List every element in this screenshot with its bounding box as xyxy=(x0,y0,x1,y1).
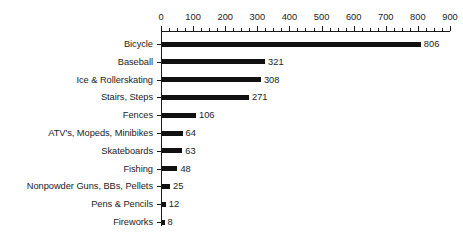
category-axis-label: Skateboards xyxy=(0,146,153,156)
bar-value-label: 321 xyxy=(268,57,284,67)
value-axis-tick-label: 400 xyxy=(282,12,298,22)
category-axis-tick xyxy=(157,186,162,187)
bar xyxy=(162,131,183,136)
category-axis-tick xyxy=(157,204,162,205)
value-axis-minor-tick xyxy=(201,28,202,31)
value-axis-minor-tick xyxy=(185,28,186,31)
value-axis-tick-label: 800 xyxy=(410,12,426,22)
bar-value-label: 63 xyxy=(185,146,195,156)
value-axis-minor-tick xyxy=(330,28,331,31)
value-axis-minor-tick xyxy=(378,28,379,31)
bar xyxy=(162,166,177,171)
value-axis-minor-tick xyxy=(346,28,347,31)
value-axis-tick-label: 300 xyxy=(250,12,266,22)
category-axis-label: Fences xyxy=(0,110,153,120)
value-axis-major-tick xyxy=(354,26,355,31)
value-axis-minor-tick xyxy=(410,28,411,31)
value-axis-tick-label: 700 xyxy=(378,12,394,22)
value-axis-minor-tick xyxy=(426,28,427,31)
value-axis-minor-tick xyxy=(362,28,363,31)
bar xyxy=(162,113,196,118)
value-axis-minor-tick xyxy=(241,28,242,31)
category-axis-tick xyxy=(157,151,162,152)
bar-value-label: 48 xyxy=(180,164,190,174)
value-axis-tick-label: 500 xyxy=(314,12,330,22)
bar-value-label: 8 xyxy=(168,217,173,227)
value-axis-major-tick xyxy=(289,26,290,31)
value-axis-minor-tick xyxy=(394,28,395,31)
category-axis-tick xyxy=(157,97,162,98)
value-axis-minor-tick xyxy=(209,28,210,31)
category-axis-tick xyxy=(157,115,162,116)
bar xyxy=(162,148,182,153)
value-axis-tick-label: 600 xyxy=(346,12,362,22)
value-axis-minor-tick xyxy=(442,28,443,31)
plot-area: 0100200300400500600700800900 80632130827… xyxy=(161,0,463,239)
category-axis-label: Fishing xyxy=(0,164,153,174)
value-axis-tick-label: 900 xyxy=(442,12,458,22)
value-axis-minor-tick xyxy=(177,28,178,31)
value-axis-major-tick xyxy=(161,26,162,31)
value-axis-major-tick xyxy=(225,26,226,31)
value-axis-minor-tick xyxy=(305,28,306,31)
value-axis-major-tick xyxy=(386,26,387,31)
category-axis-tick xyxy=(157,80,162,81)
bar-value-label: 806 xyxy=(424,39,440,49)
value-axis-minor-tick xyxy=(249,28,250,31)
bar-chart: BicycleBaseballIce & RollerskatingStairs… xyxy=(0,0,463,239)
category-axis-label: Stairs, Steps xyxy=(0,92,153,102)
category-axis-label: Fireworks xyxy=(0,217,153,227)
value-axis-line xyxy=(161,31,450,32)
category-axis-tick xyxy=(157,222,162,223)
value-axis-major-tick xyxy=(450,26,451,31)
value-axis-major-tick xyxy=(193,26,194,31)
value-axis-minor-tick xyxy=(370,28,371,31)
bar-value-label: 308 xyxy=(264,75,280,85)
value-axis-major-tick xyxy=(322,26,323,31)
category-axis-label: Nonpowder Guns, BBs, Pellets xyxy=(0,181,153,191)
value-axis-minor-tick xyxy=(273,28,274,31)
category-axis-label: Pens & Pencils xyxy=(0,199,153,209)
category-axis-label: Ice & Rollerskating xyxy=(0,75,153,85)
bar xyxy=(162,42,421,47)
value-axis-tick-label: 0 xyxy=(158,12,163,22)
bar-value-label: 271 xyxy=(252,92,268,102)
category-axis-label: Bicycle xyxy=(0,39,153,49)
category-axis-tick xyxy=(157,133,162,134)
bar xyxy=(162,220,165,225)
category-axis-label: Baseball xyxy=(0,57,153,67)
bar-value-label: 12 xyxy=(169,199,179,209)
value-axis-minor-tick xyxy=(297,28,298,31)
category-axis-tick xyxy=(157,62,162,63)
category-axis-labels: BicycleBaseballIce & RollerskatingStairs… xyxy=(0,0,153,239)
value-axis-tick-label: 100 xyxy=(185,12,201,22)
value-axis-minor-tick xyxy=(338,28,339,31)
bar xyxy=(162,77,261,82)
value-axis-minor-tick xyxy=(265,28,266,31)
bar xyxy=(162,184,170,189)
bar xyxy=(162,202,166,207)
value-axis-minor-tick xyxy=(233,28,234,31)
value-axis-minor-tick xyxy=(434,28,435,31)
bar-value-label: 25 xyxy=(173,181,183,191)
bar xyxy=(162,59,265,64)
category-axis-tick xyxy=(157,169,162,170)
bar-value-label: 64 xyxy=(186,128,196,138)
category-axis-label: ATV's, Mopeds, Minibikes xyxy=(0,128,153,138)
value-axis-minor-tick xyxy=(169,28,170,31)
category-axis-tick xyxy=(157,44,162,45)
value-axis-minor-tick xyxy=(281,28,282,31)
value-axis-minor-tick xyxy=(217,28,218,31)
bar xyxy=(162,95,249,100)
value-axis-major-tick xyxy=(418,26,419,31)
bar-value-label: 106 xyxy=(199,110,215,120)
value-axis-tick-label: 200 xyxy=(217,12,233,22)
value-axis-major-tick xyxy=(257,26,258,31)
value-axis-minor-tick xyxy=(314,28,315,31)
value-axis-minor-tick xyxy=(402,28,403,31)
